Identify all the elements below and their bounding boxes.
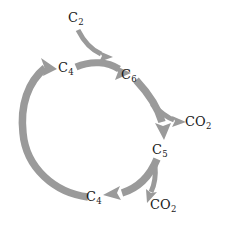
node-c4-top-subscript: 4 [68, 67, 73, 77]
node-label-c6: C6 [121, 68, 136, 81]
node-c4-top-element: C [58, 60, 68, 75]
node-c6-element: C [121, 67, 131, 82]
node-c2-subscript: 2 [78, 17, 83, 27]
node-c4-bottom-subscript: 4 [96, 196, 101, 206]
node-label-c2: C2 [68, 11, 83, 24]
node-co2-top-subscript: 2 [206, 121, 211, 131]
node-c2-element: C [68, 10, 78, 25]
node-co2-bottom-subscript: 2 [171, 204, 176, 214]
cycle-arrows-canvas [0, 0, 226, 225]
node-c4-bottom-element: C [86, 189, 96, 204]
cycle-diagram: C2 C4 C6 CO2 C5 CO2 C4 [0, 0, 226, 225]
arrow-c6-to-c5 [136, 80, 171, 140]
node-c5-element: C [152, 142, 162, 157]
node-label-c4-top: C4 [58, 61, 73, 74]
node-c5-subscript: 5 [162, 149, 167, 159]
node-c6-subscript: 6 [131, 74, 136, 84]
node-label-co2-top: CO2 [185, 115, 211, 128]
arrow-c4bottom-to-c4top [22, 58, 88, 197]
arrow-c2-input [78, 30, 113, 62]
node-label-co2-bottom: CO2 [150, 198, 176, 211]
node-label-c5: C5 [152, 143, 167, 156]
node-label-c4-bottom: C4 [86, 190, 101, 203]
node-co2-bottom-element: CO [150, 197, 171, 212]
node-co2-top-element: CO [185, 114, 206, 129]
